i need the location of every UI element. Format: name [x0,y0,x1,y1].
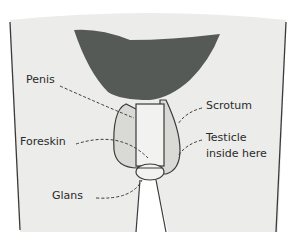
label-testicle-line2: inside here [206,148,267,160]
label-penis: Penis [26,74,55,86]
label-testicle-line1: Testicle [206,132,247,144]
label-glans: Glans [52,190,83,202]
label-scrotum: Scrotum [206,100,252,112]
label-foreskin: Foreskin [20,136,66,148]
anatomy-diagram: Penis Foreskin Glans Scrotum Testicle in… [0,0,292,243]
illustration [0,0,292,243]
scrotum-left [114,104,138,168]
glans [136,164,164,180]
penis-shaft [136,104,164,166]
